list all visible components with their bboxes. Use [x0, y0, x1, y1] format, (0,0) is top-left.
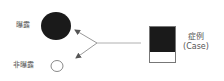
exposed-circle [41, 12, 71, 40]
case-box-filled [149, 26, 176, 52]
unexposed-circle [51, 61, 63, 72]
arrow-to-unexposed [76, 43, 97, 58]
arrow-to-exposed [75, 30, 97, 43]
case-label-en: (Case) [180, 42, 212, 52]
unexposed-label: 非曝露 [13, 59, 35, 69]
exposed-label: 曝露 [16, 19, 30, 29]
case-label-ja: 症例 [180, 32, 212, 42]
case-label: 症例 (Case) [180, 32, 212, 52]
